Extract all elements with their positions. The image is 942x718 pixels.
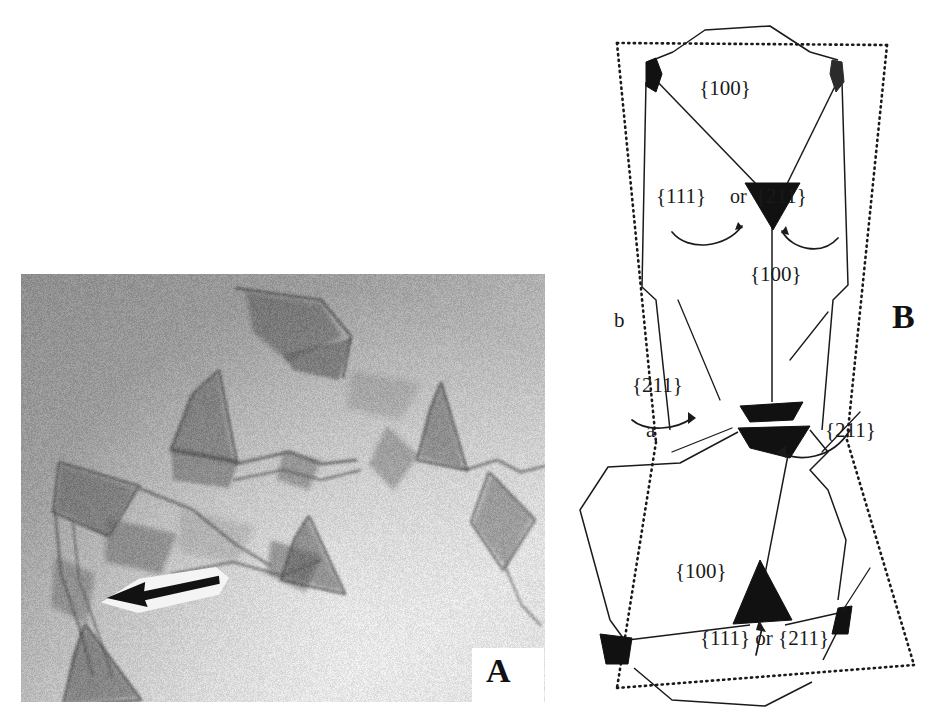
facet-label-lower-100: {100} [675, 559, 727, 583]
facet-mid-upper-dark [740, 402, 803, 422]
facet-bottom-right-dark [832, 606, 852, 634]
facet-label-upper-211: {211} [756, 184, 807, 208]
figure-root: A [0, 0, 942, 718]
facet-label-mid-100: {100} [750, 262, 802, 286]
vertex-label-a: a [646, 418, 656, 442]
panel-a-micrograph [21, 274, 545, 702]
facet-lower-center-dark [733, 560, 792, 624]
facet-top-left-dark [646, 58, 662, 92]
arrow-upper-111 [672, 226, 742, 245]
facet-label-group: {100} {111} or {211} {100} {211} {211} {… [632, 76, 876, 650]
facet-label-left-211: {211} [632, 373, 683, 397]
panel-a-label: A [486, 654, 511, 688]
arrow-upper-211 [782, 231, 838, 249]
facet-bottom-left-dark [600, 634, 632, 664]
facet-label-right-211: {211} [825, 418, 876, 442]
facet-label-upper-or: or [730, 185, 747, 207]
crystal-habit-diagram: {100} {111} or {211} {100} {211} {211} {… [560, 0, 942, 718]
facet-mid-lower-dark [738, 426, 810, 458]
facet-label-bottom-111-211: {111} or {211} [700, 626, 829, 650]
facet-label-upper-111: {111} [656, 184, 706, 208]
panel-b-diagram: {100} {111} or {211} {100} {211} {211} {… [560, 0, 942, 718]
panel-b-label: B [892, 300, 915, 334]
vertex-label-b: b [614, 308, 625, 332]
sem-micrograph-image [21, 274, 545, 702]
dotted-outline-lower [617, 440, 914, 688]
arrow-left-211 [632, 418, 692, 428]
facet-label-top-100: {100} [699, 76, 751, 100]
